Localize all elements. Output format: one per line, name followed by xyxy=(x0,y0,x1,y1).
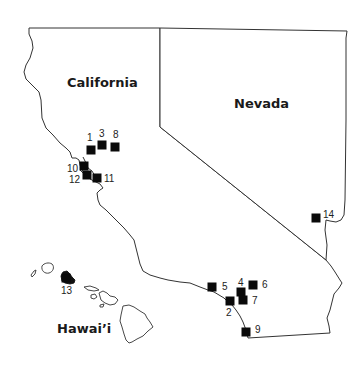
kahoolawe-island xyxy=(100,304,104,307)
site-number: 7 xyxy=(252,295,258,306)
square-marker-icon xyxy=(62,274,71,283)
nevada-label: Nevada xyxy=(234,96,289,111)
square-marker-icon xyxy=(93,174,102,183)
site-number: 14 xyxy=(323,209,335,220)
site-number: 9 xyxy=(255,324,261,335)
site-number: 6 xyxy=(262,279,268,290)
site-marker-2: 2 xyxy=(226,297,235,319)
site-number: 12 xyxy=(69,174,81,185)
square-marker-icon xyxy=(239,296,248,305)
kauai-island xyxy=(42,263,54,273)
square-marker-icon xyxy=(98,141,107,150)
square-marker-icon xyxy=(111,143,120,152)
square-marker-icon xyxy=(87,146,96,155)
hawaii-label: Hawai’i xyxy=(57,321,111,336)
niihau-island xyxy=(31,270,36,277)
site-number: 11 xyxy=(104,173,115,184)
square-marker-icon xyxy=(237,288,246,297)
site-number: 13 xyxy=(61,285,73,296)
california-label: California xyxy=(67,75,138,90)
site-number: 10 xyxy=(67,163,79,174)
site-number: 4 xyxy=(238,277,244,288)
square-marker-icon xyxy=(249,281,258,290)
square-marker-icon xyxy=(312,214,321,223)
site-number: 5 xyxy=(222,281,228,292)
square-marker-icon xyxy=(80,162,89,171)
molokai-island xyxy=(84,286,99,291)
square-marker-icon xyxy=(83,171,92,180)
site-number: 8 xyxy=(113,129,119,140)
square-marker-icon xyxy=(226,297,235,306)
big-island xyxy=(120,305,153,343)
site-number: 1 xyxy=(87,132,93,143)
square-marker-icon xyxy=(242,328,251,337)
square-marker-icon xyxy=(208,283,217,292)
site-marker-11: 11 xyxy=(93,173,115,184)
site-number: 2 xyxy=(226,307,232,318)
lanai-island xyxy=(91,294,97,299)
site-number: 3 xyxy=(99,128,105,139)
map-canvas: California Nevada Hawai’i 12345678910111… xyxy=(0,0,364,369)
maui-island xyxy=(99,291,118,305)
